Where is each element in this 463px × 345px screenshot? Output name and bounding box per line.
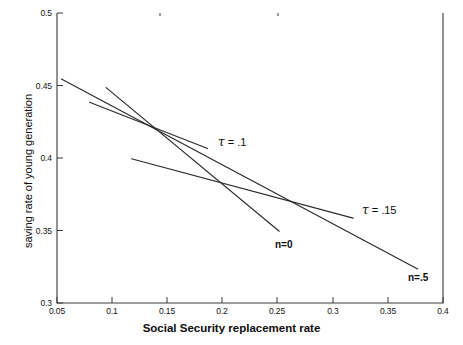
tau-point-one-value: = .1: [228, 136, 247, 148]
x-tick-label-3: 0.2: [216, 306, 228, 316]
series-line-tau-point-one: [90, 102, 208, 148]
x-tick-label-7: 0.4: [437, 306, 449, 316]
series-label-n-point-five: n=.5: [408, 272, 428, 283]
tau-point-one-five-value: = .15: [372, 204, 397, 216]
x-tick-label-5: 0.3: [327, 306, 339, 316]
x-axis-title: Social Security replacement rate: [0, 322, 463, 334]
top-axis-ticks: [160, 13, 278, 16]
x-tick-label-2: 0.15: [159, 306, 175, 316]
series-lines: [61, 79, 417, 269]
series-label-tau-point-one-five: τ = .15: [362, 203, 396, 217]
y-tick-label-0: 0.5: [26, 8, 52, 18]
plot-area: [0, 0, 463, 345]
chart-figure: 0.05 0.1 0.15 0.2 0.25 0.3 0.35 0.4 0.5 …: [0, 0, 463, 345]
x-tick-label-4: 0.25: [269, 306, 285, 316]
axis-frame: [57, 13, 443, 303]
x-tick-label-6: 0.35: [380, 306, 396, 316]
tau-symbol-icon: τ: [218, 135, 225, 149]
series-line-tau-point-one-five: [131, 159, 353, 218]
y-axis-title: saving rate of young generation: [22, 94, 34, 248]
y-tick-label-4: 0.3: [26, 298, 52, 308]
x-axis-ticks: [57, 297, 443, 303]
series-line-n-point-five: [61, 79, 417, 269]
series-label-n-zero: n=0: [275, 239, 293, 250]
tau-symbol-icon-2: τ: [362, 203, 369, 217]
y-axis-ticks: [57, 13, 63, 303]
y-tick-label-1: 0.45: [26, 81, 52, 91]
x-tick-label-1: 0.1: [106, 306, 118, 316]
series-label-tau-point-one: τ = .1: [218, 135, 246, 149]
